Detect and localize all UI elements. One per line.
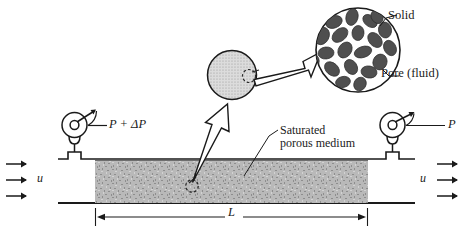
pipe-top-wall xyxy=(58,152,415,159)
diagram-svg xyxy=(0,0,468,239)
label-saturated-line2: porous medium xyxy=(280,137,355,150)
flow-arrows-outlet xyxy=(437,161,458,200)
pressure-gauge-outlet xyxy=(380,112,445,152)
magnify-arrow-2 xyxy=(254,52,321,86)
flow-arrows-inlet xyxy=(6,161,27,200)
label-pore-fluid: Pore (fluid) xyxy=(381,66,439,80)
label-solid: Solid xyxy=(388,8,414,22)
right-arrow-icon xyxy=(437,161,458,168)
pore-scale-circle-large xyxy=(305,7,400,93)
saturated-porous-medium-block xyxy=(95,160,368,203)
label-velocity-inlet: u xyxy=(37,172,43,185)
label-saturated-porous-medium: Saturated porous medium xyxy=(280,124,355,151)
right-arrow-icon xyxy=(6,193,27,200)
label-pressure-outlet: P xyxy=(448,117,456,131)
pore-scale-circle-small xyxy=(208,51,260,100)
right-arrow-icon xyxy=(6,177,27,184)
pressure-gauge-inlet xyxy=(62,110,107,153)
right-arrow-icon xyxy=(437,177,458,184)
label-velocity-outlet: u xyxy=(420,172,426,185)
label-length: L xyxy=(228,205,235,219)
right-arrow-icon xyxy=(437,193,458,200)
figure-canvas: Solid Pore (fluid) Saturated porous medi… xyxy=(0,0,468,239)
label-pressure-inlet: P + ΔP xyxy=(109,117,146,131)
right-arrow-icon xyxy=(6,161,27,168)
label-saturated-line1: Saturated xyxy=(280,124,355,137)
